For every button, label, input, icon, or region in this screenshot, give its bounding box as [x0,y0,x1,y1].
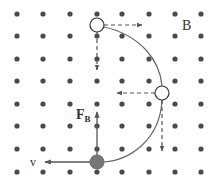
force-label-subscript: B [85,114,91,124]
field-dot [14,146,19,151]
force-label: FB [76,107,91,124]
field-dot [198,33,203,38]
field-dot [67,11,72,16]
particle-bottom [90,155,104,169]
field-dot [67,33,72,38]
field-dot [14,56,19,61]
field-dot [94,169,99,174]
field-dot [172,78,177,83]
field-dot [40,169,45,174]
field-dot [40,123,45,128]
field-dot [40,78,45,83]
field-dot [172,169,177,174]
field-dot [146,56,151,61]
field-dot [146,33,151,38]
field-dot [67,78,72,83]
field-dot [14,101,19,106]
field-dot [119,78,124,83]
field-dot [172,101,177,106]
field-dot [67,146,72,151]
particle-right [155,86,169,100]
magnetic-field-diagram: B FB v [0,0,217,186]
field-dot [198,169,203,174]
circular-trajectory [104,27,162,162]
field-dot [198,56,203,61]
field-dot [67,101,72,106]
field-dot [172,146,177,151]
field-dot [94,78,99,83]
field-dot [94,11,99,16]
field-dot [14,169,19,174]
field-dot [67,169,72,174]
field-dot [172,123,177,128]
field-dot [198,101,203,106]
field-label: B [182,18,191,33]
field-dot [67,123,72,128]
field-dot [119,56,124,61]
particle-top [90,18,104,32]
field-dot [198,78,203,83]
field-dot [119,169,124,174]
field-dot [119,101,124,106]
field-dot [198,11,203,16]
field-dot [146,146,151,151]
field-dot [146,169,151,174]
field-dot [198,123,203,128]
field-dot [172,33,177,38]
field-dot [67,56,72,61]
field-dot [119,123,124,128]
field-dot [40,101,45,106]
field-dot [119,11,124,16]
field-dot [14,33,19,38]
field-dot [40,146,45,151]
field-dot [172,11,177,16]
field-dot [146,101,151,106]
field-dot [40,56,45,61]
field-dot [119,146,124,151]
field-dot [40,11,45,16]
field-dot [14,11,19,16]
field-dot [146,11,151,16]
field-dot [146,78,151,83]
field-dot [172,56,177,61]
velocity-label: v [30,155,36,169]
field-dots-grid [14,11,203,174]
field-dot [40,33,45,38]
field-dot [94,101,99,106]
field-dot [14,78,19,83]
field-dot [198,146,203,151]
field-dot [146,123,151,128]
force-label-main: F [76,107,85,122]
field-dot [14,123,19,128]
